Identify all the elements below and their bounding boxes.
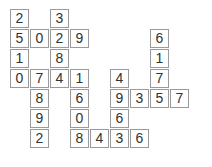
grid-cell-r5-c5[interactable]: 6	[110, 109, 129, 128]
grid-cell-r3-c0[interactable]: 0	[10, 69, 29, 88]
grid-cell-r2-c0[interactable]: 1	[10, 49, 29, 68]
grid-cell-r4-c8[interactable]: 7	[170, 89, 189, 108]
grid-cell-r6-c6[interactable]: 6	[130, 129, 149, 148]
grid-cell-r1-c0[interactable]: 5	[10, 29, 29, 48]
grid-cell-r1-c2[interactable]: 2	[50, 29, 69, 48]
grid-cell-r6-c4[interactable]: 4	[90, 129, 109, 148]
grid-cell-r5-c1[interactable]: 9	[30, 109, 49, 128]
grid-cell-r4-c5[interactable]: 9	[110, 89, 129, 108]
grid-cell-r0-c2[interactable]: 3	[50, 9, 69, 28]
grid-cell-r5-c3[interactable]: 0	[70, 109, 89, 128]
grid-cell-r4-c1[interactable]: 8	[30, 89, 49, 108]
grid-cell-r6-c1[interactable]: 2	[30, 129, 49, 148]
grid-cell-r3-c7[interactable]: 7	[150, 69, 169, 88]
grid-cell-r1-c7[interactable]: 6	[150, 29, 169, 48]
grid-cell-r4-c7[interactable]: 5	[150, 89, 169, 108]
grid-cell-r3-c5[interactable]: 4	[110, 69, 129, 88]
grid-cell-r2-c7[interactable]: 1	[150, 49, 169, 68]
grid-cell-r6-c5[interactable]: 3	[110, 129, 129, 148]
grid-cell-r4-c6[interactable]: 3	[130, 89, 149, 108]
grid-cell-r0-c0[interactable]: 2	[10, 9, 29, 28]
grid-cell-r1-c1[interactable]: 0	[30, 29, 49, 48]
grid-cell-r3-c1[interactable]: 7	[30, 69, 49, 88]
grid-cell-r6-c3[interactable]: 8	[70, 129, 89, 148]
grid-cell-r3-c3[interactable]: 1	[70, 69, 89, 88]
grid-cell-r2-c2[interactable]: 8	[50, 49, 69, 68]
grid-cell-r1-c3[interactable]: 9	[70, 29, 89, 48]
grid-cell-r3-c2[interactable]: 4	[50, 69, 69, 88]
number-puzzle-grid: 235029618107414786935790628436	[0, 0, 212, 167]
grid-cell-r4-c3[interactable]: 6	[70, 89, 89, 108]
